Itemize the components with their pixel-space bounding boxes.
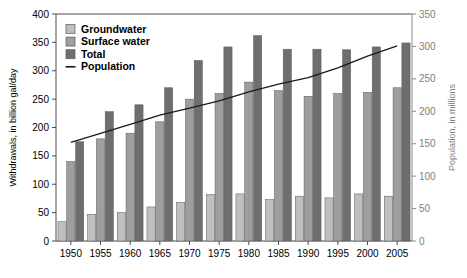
- bar-group: [325, 50, 351, 241]
- bar-group: [117, 105, 143, 241]
- bar: [254, 36, 262, 241]
- y-tick-label-right: 350: [419, 9, 436, 20]
- bar: [215, 93, 223, 241]
- bar-group: [384, 43, 410, 241]
- legend-label: Surface water: [81, 35, 150, 47]
- y-tick-label-right: 50: [419, 203, 431, 214]
- bar-group: [355, 47, 381, 241]
- bar-group: [177, 61, 203, 241]
- bar: [343, 50, 351, 241]
- bar: [147, 207, 155, 241]
- y-tick-label-left: 350: [32, 37, 49, 48]
- bar: [363, 92, 371, 241]
- y-tick-label-right: 100: [419, 171, 436, 182]
- bar: [313, 49, 321, 241]
- bar: [402, 43, 410, 241]
- legend-swatch: [66, 37, 75, 46]
- y-axis-title-left: Withdrawals, in billion gal/day: [8, 68, 18, 187]
- bar: [206, 194, 214, 241]
- bar: [76, 142, 84, 241]
- bar: [295, 196, 303, 241]
- water-withdrawals-chart: 0501001502002503003504000501001502002503…: [0, 0, 467, 278]
- x-tick-label: 1965: [149, 248, 172, 259]
- bar: [266, 200, 274, 241]
- bar: [274, 91, 282, 241]
- bar: [224, 47, 232, 241]
- y-tick-label-left: 50: [38, 207, 50, 218]
- y-tick-label-left: 300: [32, 65, 49, 76]
- legend-label: Total: [81, 48, 105, 60]
- y-tick-label-left: 0: [43, 236, 49, 247]
- x-tick-label: 1975: [208, 248, 231, 259]
- legend-swatch: [66, 50, 75, 59]
- bar: [156, 122, 164, 241]
- legend-swatch: [66, 25, 75, 34]
- bar: [117, 213, 125, 241]
- y-tick-label-left: 150: [32, 150, 49, 161]
- y-tick-label-left: 200: [32, 122, 49, 133]
- y-axis-right: 050100150200250300350: [412, 9, 436, 247]
- bar-group: [236, 36, 262, 241]
- bar-group: [147, 88, 173, 241]
- y-tick-label-right: 250: [419, 73, 436, 84]
- x-tick-label: 1990: [297, 248, 320, 259]
- y-tick-label-right: 200: [419, 106, 436, 117]
- bar: [245, 82, 253, 241]
- y-axis-left: 050100150200250300350400: [32, 9, 56, 247]
- bar: [236, 194, 244, 241]
- x-tick-label: 1980: [238, 248, 261, 259]
- bar: [185, 99, 193, 241]
- y-tick-label-right: 0: [419, 236, 425, 247]
- bar-group: [266, 49, 292, 241]
- bar: [58, 222, 66, 241]
- y-axis-title-right: Population, in millions: [447, 83, 457, 171]
- x-tick-label: 1985: [267, 248, 290, 259]
- bar-group: [206, 47, 232, 241]
- legend-label: Population: [81, 60, 135, 72]
- bar: [372, 47, 380, 241]
- y-tick-label-right: 150: [419, 138, 436, 149]
- bar: [177, 202, 185, 241]
- y-tick-label-left: 250: [32, 94, 49, 105]
- bar: [67, 162, 75, 241]
- bar: [88, 214, 96, 241]
- bar: [165, 88, 173, 241]
- bar: [304, 96, 312, 241]
- x-tick-label: 1960: [119, 248, 142, 259]
- bar: [194, 61, 202, 241]
- x-tick-label: 1950: [60, 248, 83, 259]
- x-tick-label: 1955: [89, 248, 112, 259]
- x-tick-label: 1995: [327, 248, 350, 259]
- bar: [135, 105, 143, 241]
- x-tick-label: 2000: [356, 248, 379, 259]
- chart-legend: GroundwaterSurface waterTotalPopulation: [66, 23, 150, 73]
- x-tick-label: 2005: [386, 248, 409, 259]
- y-tick-label-left: 400: [32, 9, 49, 20]
- x-axis: 1950195519601965197019751980198519901995…: [60, 241, 409, 259]
- y-tick-label-right: 300: [419, 41, 436, 52]
- bar-group: [58, 142, 84, 241]
- chart-figure: 0501001502002503003504000501001502002503…: [0, 0, 467, 278]
- legend-label: Groundwater: [81, 23, 146, 35]
- bar: [393, 88, 401, 241]
- bar: [96, 139, 104, 241]
- bar: [355, 194, 363, 241]
- bar: [384, 196, 392, 241]
- bar: [325, 198, 333, 241]
- bar: [126, 133, 134, 241]
- y-tick-label-left: 100: [32, 179, 49, 190]
- bar: [283, 49, 291, 241]
- bar: [334, 93, 342, 241]
- x-tick-label: 1970: [178, 248, 201, 259]
